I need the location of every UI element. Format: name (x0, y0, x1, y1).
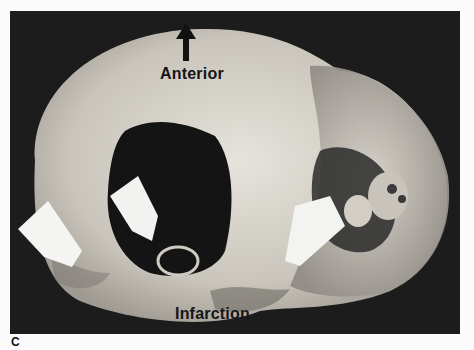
panel-label: C (11, 335, 20, 349)
heart-cross-section-photo: Anterior Infarction (10, 11, 460, 334)
label-anterior: Anterior (160, 65, 224, 83)
label-infarction: Infarction (175, 305, 250, 323)
heart-specimen (10, 11, 460, 334)
